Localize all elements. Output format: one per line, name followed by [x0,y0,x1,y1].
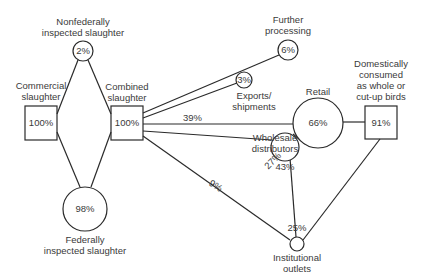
exports-label-line1: Exports/ [214,90,294,101]
combined-label-line1: Combined [95,81,159,92]
domestic-label-line4: cut-up birds [341,91,421,102]
retail-label-line1: Retail [293,86,343,97]
edge-label-combined-retail: 39% [183,112,202,123]
commercial-label: Commercial slaughter [9,80,73,102]
domestic-label-line3: as whole or [341,80,421,91]
wholesale-label-line1: Wholesale [235,132,315,143]
exports-label: Exports/ shipments [214,90,294,112]
institutional-value: 25% [283,222,311,233]
exports-label-line2: shipments [214,101,294,112]
edge-commercial-federal [57,132,80,187]
combined-value: 100% [111,117,143,128]
combined-label-line2: slaughter [95,92,159,103]
domestic-label: Domestically consumed as whole or cut-up… [341,58,421,102]
edge-federal-combined [91,132,111,187]
exports-value: 3% [234,74,254,85]
institutional-label-line1: Institutional [257,252,337,263]
federal-label: Federally inspected slaughter [35,234,135,256]
federal-label-line1: Federally [35,234,135,245]
node-institutional-circle [290,237,304,251]
commercial-label-line1: Commercial [9,80,73,91]
further-label: Further processing [248,14,328,36]
nonfederal-label-line2: inspected slaughter [33,27,133,38]
federal-value: 98% [69,203,101,214]
further-label-line1: Further [248,14,328,25]
retail-label: Retail [293,86,343,97]
nonfederal-value: 2% [71,45,95,56]
commercial-label-line2: slaughter [9,91,73,102]
retail-value: 66% [302,117,334,128]
edge-institutional-domestic [303,139,380,240]
combined-label: Combined slaughter [95,81,159,103]
domestic-label-line2: consumed [341,69,421,80]
further-value: 6% [276,44,300,55]
nonfederal-label-line1: Nonfederally [33,16,133,27]
nonfederal-label: Nonfederally inspected slaughter [33,16,133,38]
commercial-value: 100% [25,117,57,128]
further-label-line2: processing [248,25,328,36]
domestic-label-line1: Domestically [341,58,421,69]
federal-label-line2: inspected slaughter [35,245,135,256]
institutional-label: Institutional outlets [257,252,337,274]
institutional-label-line2: outlets [257,263,337,274]
domestic-value: 91% [365,117,397,128]
